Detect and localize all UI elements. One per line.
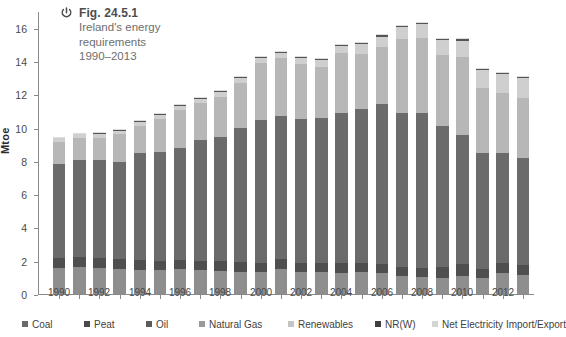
- legend-swatch-icon: [22, 321, 28, 327]
- x-axis-tick-label: 1994: [129, 287, 151, 298]
- legend-label: Oil: [156, 319, 168, 330]
- y-axis-tick-label: 0: [21, 289, 27, 301]
- y-axis-tick-label: 10: [15, 123, 27, 135]
- legend-swatch-icon: [432, 321, 438, 327]
- x-axis-tick-label: 1998: [209, 287, 231, 298]
- legend-item-peat[interactable]: Peat: [84, 319, 115, 330]
- x-axis-tick-label: 2000: [250, 287, 272, 298]
- legend-swatch-icon: [288, 321, 294, 327]
- y-axis-tick-label: 2: [21, 256, 27, 268]
- y-axis-tick-label: 12: [15, 89, 27, 101]
- x-axis-tick-label: 2008: [411, 287, 433, 298]
- chart-legend: CoalPeatOilNatural GasRenewablesNR(W)Net…: [0, 314, 537, 334]
- x-axis-tick-label: 2012: [492, 287, 514, 298]
- x-axis-tick-label: 1996: [169, 287, 191, 298]
- legend-label: Peat: [94, 319, 115, 330]
- x-axis-tick-labels: 1990199219941996199820002002200420062008…: [38, 0, 534, 337]
- legend-label: Net Electricity Import/Export: [442, 319, 566, 330]
- legend-swatch-icon: [375, 321, 381, 327]
- legend-item-natural-gas[interactable]: Natural Gas: [199, 319, 262, 330]
- x-axis-tick-label: 2010: [451, 287, 473, 298]
- legend-label: Renewables: [298, 319, 353, 330]
- legend-swatch-icon: [84, 321, 90, 327]
- x-axis-tick-label: 2002: [290, 287, 312, 298]
- legend-item-renewables[interactable]: Renewables: [288, 319, 353, 330]
- y-axis-tick-label: 6: [21, 189, 27, 201]
- legend-swatch-icon: [146, 321, 152, 327]
- legend-label: NR(W): [385, 319, 416, 330]
- x-axis-tick-label: 2004: [330, 287, 352, 298]
- legend-item-nr-w[interactable]: NR(W): [375, 319, 416, 330]
- x-axis-tick-label: 1990: [48, 287, 70, 298]
- legend-item-coal[interactable]: Coal: [22, 319, 53, 330]
- y-axis-tick-labels: 0246810121416: [0, 12, 34, 295]
- y-axis-tick-label: 4: [21, 222, 27, 234]
- x-axis-tick-label: 1992: [88, 287, 110, 298]
- y-axis-tick-label: 16: [15, 23, 27, 35]
- legend-label: Natural Gas: [209, 319, 262, 330]
- legend-item-net-electricity-import-export[interactable]: Net Electricity Import/Export: [432, 319, 566, 330]
- legend-swatch-icon: [199, 321, 205, 327]
- legend-item-oil[interactable]: Oil: [146, 319, 168, 330]
- x-axis-tick-label: 2006: [371, 287, 393, 298]
- y-axis-tick-label: 14: [15, 56, 27, 68]
- y-axis-tick-label: 8: [21, 156, 27, 168]
- legend-label: Coal: [32, 319, 53, 330]
